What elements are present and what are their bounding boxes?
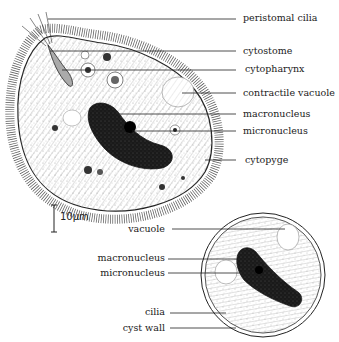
label-cyst-wall: cyst wall xyxy=(123,323,165,333)
label-cilia: cilia xyxy=(145,307,165,317)
label-peristomal-cilia: peristomal cilia xyxy=(243,13,318,23)
label-vacuole: vacuole xyxy=(128,224,165,234)
label-contractile-vacuole: contractile vacuole xyxy=(243,88,335,98)
trophozoite xyxy=(18,12,212,211)
label-cytopharynx: cytopharynx xyxy=(245,64,304,74)
scale-bar xyxy=(51,205,57,232)
label-micronucleus: micronucleus xyxy=(243,126,308,136)
label-cyst-micronucleus: micronucleus xyxy=(100,268,165,278)
cyst-micronucleus xyxy=(255,266,263,274)
label-cytostome: cytostome xyxy=(243,46,292,56)
label-cyst-macronucleus: macronucleus xyxy=(98,253,165,263)
figure: peristomal cilia cytostome cytopharynx c… xyxy=(0,0,339,342)
label-cytopyge: cytopyge xyxy=(245,155,288,165)
label-macronucleus: macronucleus xyxy=(243,109,310,119)
scale-bar-label: 10μm xyxy=(60,212,89,222)
cyst xyxy=(201,213,325,337)
